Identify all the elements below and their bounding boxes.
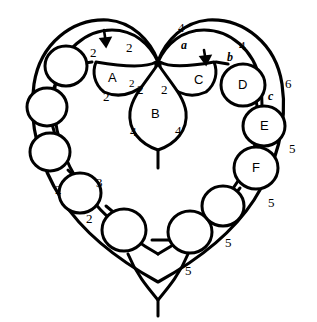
node-circle [59, 173, 101, 213]
heart-diagram-svg [0, 0, 317, 322]
italic-label-b: b [227, 51, 233, 63]
node-label-B: B [151, 107, 160, 120]
edge-weight-label: 4 [178, 21, 185, 34]
node-circle [202, 186, 244, 226]
edge-weight-label: 2 [126, 41, 133, 54]
edge-weight-label: 2 [55, 183, 62, 196]
node-circle [27, 88, 67, 126]
node-circle [45, 46, 87, 86]
edge-weight-label: 5 [289, 142, 296, 155]
edge-weight-label: 2 [137, 83, 144, 96]
edge-weight-label: 4 [130, 125, 137, 138]
edge-weight-label: 4 [239, 39, 246, 52]
edge-weight-label: 6 [285, 77, 292, 90]
italic-label-a: a [181, 39, 187, 51]
edge-weight-label: 3 [96, 176, 103, 189]
edge-weight-label: 2 [161, 83, 168, 96]
inner-ring-and-lobes [27, 30, 285, 316]
diagram-canvas: A B C D E F 2 2 2 2 2 2 4 4 4 4 6 5 5 5 … [0, 0, 317, 322]
node-label-F: F [252, 161, 260, 174]
node-label-D: D [238, 78, 247, 91]
bottom-v-arc [128, 254, 188, 300]
edge-weight-label: 2 [90, 46, 97, 59]
edge-weight-label: 2 [103, 90, 110, 103]
edge-weight-label: 5 [268, 196, 275, 209]
node-label-A: A [108, 71, 117, 84]
edge-weight-label: 5 [225, 236, 232, 249]
italic-label-c: c [268, 90, 273, 102]
node-label-E: E [260, 119, 269, 132]
node-circle [102, 209, 146, 251]
node-circle [30, 133, 70, 171]
edge-weight-label: 5 [185, 264, 192, 277]
edge-weight-label: 2 [129, 78, 135, 89]
edge-weight-label: 2 [86, 212, 93, 225]
node-label-C: C [194, 73, 203, 86]
edge-weight-label: 4 [175, 124, 182, 137]
